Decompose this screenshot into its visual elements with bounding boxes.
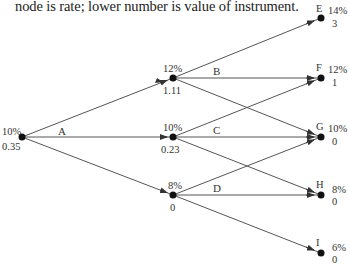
node-mid (170, 134, 177, 141)
branch-D: D (213, 183, 221, 194)
node-H (318, 192, 325, 199)
edge-up-E (173, 18, 321, 78)
down-value: 0 (170, 203, 175, 214)
node-E (318, 15, 325, 22)
down-rate: 8% (168, 181, 182, 192)
H-value: 0 (332, 197, 337, 208)
I-value: 0 (332, 255, 337, 266)
mid-value: 0.23 (161, 145, 179, 156)
up-rate: 12% (163, 64, 182, 75)
root-rate: 10% (2, 127, 21, 138)
node-I (318, 250, 325, 257)
I-rate: 6% (332, 243, 346, 254)
node-up (170, 75, 177, 82)
edge-root-up (22, 78, 173, 137)
I-name: I (316, 238, 320, 249)
E-rate: 14% (328, 6, 347, 17)
node-F (318, 75, 325, 82)
F-rate: 12% (328, 65, 347, 76)
mid-rate: 10% (163, 123, 182, 134)
F-value: 1 (332, 78, 337, 89)
E-value: 3 (332, 19, 337, 30)
F-name: F (316, 63, 322, 74)
G-value: 0 (332, 137, 337, 148)
node-G (318, 134, 325, 141)
branch-C: C (213, 125, 220, 136)
E-name: E (316, 4, 322, 15)
root-value: 0.35 (2, 142, 20, 153)
H-name: H (316, 180, 324, 191)
up-value: 1.11 (163, 86, 181, 97)
edge-root-down (22, 137, 173, 195)
edge-down-I (173, 195, 321, 253)
G-rate: 10% (328, 124, 347, 135)
branch-A: A (58, 126, 66, 137)
G-name: G (316, 122, 324, 133)
H-rate: 8% (332, 185, 346, 196)
node-down (170, 192, 177, 199)
tree-diagram (0, 0, 349, 268)
branch-B: B (213, 66, 220, 77)
